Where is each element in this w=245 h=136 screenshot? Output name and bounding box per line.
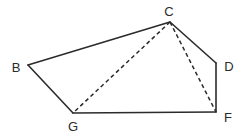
edge-c-d [170, 22, 216, 63]
diagonal-c-f [170, 22, 216, 112]
diagonal-c-g [73, 22, 170, 113]
vertex-label-d: D [224, 60, 233, 73]
edge-g-b [28, 65, 73, 113]
vertex-label-g: G [68, 120, 78, 133]
vertex-label-f: F [224, 111, 232, 124]
vertex-label-b: B [12, 61, 21, 74]
edge-b-c [28, 22, 170, 65]
geometry-canvas [0, 0, 245, 136]
geometry-figure: B C D F G [0, 0, 245, 136]
vertex-label-c: C [164, 5, 173, 18]
edge-f-g [73, 112, 216, 113]
